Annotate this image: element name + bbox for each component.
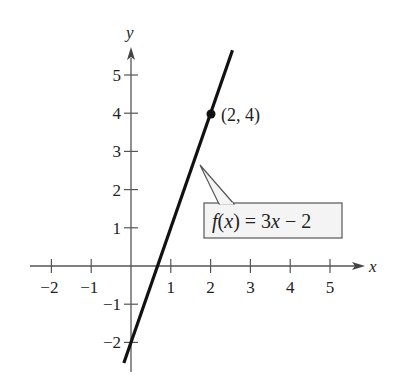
y-ticks: −2−112345: [103, 66, 138, 352]
x-tick-label: −2: [40, 278, 58, 297]
x-tick-label: 4: [286, 278, 295, 297]
y-tick-label: 3: [113, 142, 122, 161]
x-tick-label: 3: [246, 278, 255, 297]
point-label: (2, 4): [221, 105, 260, 126]
y-tick-label: −2: [103, 333, 121, 352]
function-graph: x y −2−112345 −2−112345 (2, 4) f(x) = 3x…: [0, 0, 397, 384]
x-tick-label: 5: [326, 278, 335, 297]
x-axis-label: x: [368, 257, 377, 276]
x-axis: x: [30, 257, 377, 276]
y-tick-label: 1: [113, 219, 122, 238]
x-tick-label: −1: [80, 278, 98, 297]
x-ticks: −2−112345: [40, 259, 334, 297]
y-tick-label: 4: [113, 104, 122, 123]
y-tick-label: 2: [113, 181, 122, 200]
y-tick-label: 5: [113, 66, 122, 85]
x-tick-label: 2: [206, 278, 215, 297]
point-marker: [207, 110, 216, 119]
x-tick-label: 1: [167, 278, 176, 297]
function-label: f(x) = 3x − 2: [212, 210, 311, 233]
y-tick-label: −1: [103, 295, 121, 314]
y-axis-label: y: [124, 23, 134, 42]
function-callout: f(x) = 3x − 2: [200, 165, 342, 238]
